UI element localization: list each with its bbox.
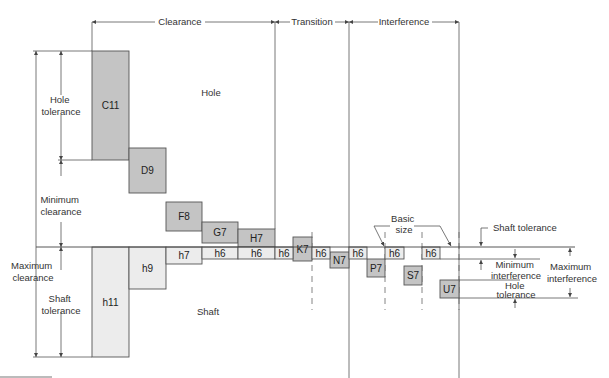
basic-size-label: Basic size: [391, 213, 417, 235]
shaft-tolerance-label: Shaft tolerance: [41, 293, 80, 316]
shaft-box-label: h6: [214, 248, 226, 259]
minimum-interference-label: Minimum interference: [491, 259, 541, 281]
minimum-clearance-label: Minimum clearance: [40, 194, 81, 217]
shaft-box-label: h7: [178, 250, 190, 261]
hole-box-label: N7: [333, 255, 346, 266]
zone-label-transition: Transition: [291, 16, 332, 27]
shaft-box-label: h6: [251, 248, 263, 259]
shaft-tolerance-right-label: Shaft tolerance: [493, 222, 557, 233]
hole-region-label: Hole: [201, 87, 221, 98]
shaft-box-label: h6: [352, 248, 364, 259]
shaft-box-label: h6: [278, 248, 290, 259]
shaft-box-label: h9: [142, 263, 154, 274]
zone-label-clearance: Clearance: [158, 16, 201, 27]
hole-tolerance-label: Hole tolerance: [41, 94, 80, 117]
hole-box-label: G7: [213, 227, 227, 238]
fits-diagram: Clearance Transition Interference C11D9F…: [0, 0, 609, 378]
hole-box-label: P7: [370, 263, 383, 274]
shaft-box-label: h6: [425, 248, 437, 259]
maximum-interference-label: Maximum interference: [547, 261, 597, 284]
hole-box-label: H7: [250, 233, 263, 244]
shaft-tolerance-zones: h11h9h7h6h6h6h6h6h6h6: [92, 247, 440, 357]
hole-box-label: C11: [102, 100, 120, 111]
hole-box-label: K7: [296, 244, 309, 255]
hole-tolerance-right-label: Hole tolerance: [496, 280, 535, 300]
dashed-separators: [312, 232, 459, 310]
hole-box-label: U7: [443, 284, 456, 295]
shaft-box-label: h11: [103, 297, 119, 308]
zone-label-interference: Interference: [379, 16, 430, 27]
shaft-box-label: h6: [389, 248, 401, 259]
hole-box-label: F8: [178, 211, 190, 222]
hole-box-label: S7: [407, 270, 420, 281]
maximum-clearance-label: Maximum clearance: [11, 260, 55, 283]
zone-headers: [92, 22, 459, 378]
hole-box-label: D9: [141, 165, 154, 176]
shaft-region-label: Shaft: [197, 306, 220, 317]
shaft-box-label: h6: [315, 248, 327, 259]
